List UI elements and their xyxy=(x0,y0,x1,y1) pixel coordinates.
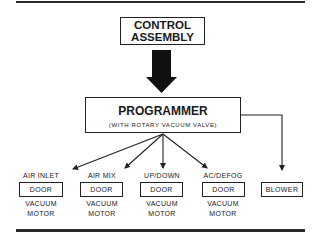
door-text: DOOR xyxy=(30,186,53,193)
blower-text: BLOWER xyxy=(266,186,299,193)
programmer-subtitle: (WITH ROTARY VACUUM VALVE) xyxy=(109,122,217,128)
ac-defog-label: AC/DEFOG xyxy=(193,172,253,179)
programmer-title: PROGRAMMER xyxy=(118,104,207,118)
door-text: DOOR xyxy=(150,186,173,193)
air-inlet-door-box: DOOR xyxy=(19,182,63,197)
control-line1: CONTROL xyxy=(134,19,191,31)
blower-box: BLOWER xyxy=(261,182,303,197)
bottom-rule xyxy=(16,229,305,232)
door-text: DOOR xyxy=(212,186,235,193)
up-down-label: UP/DOWN xyxy=(132,172,192,179)
motor-label: MOTOR xyxy=(72,210,132,217)
control-assembly-box: CONTROL ASSEMBLY xyxy=(120,17,205,45)
air-mix-label: AIR MIX xyxy=(72,172,132,179)
door-text: DOOR xyxy=(90,186,113,193)
control-line2: ASSEMBLY xyxy=(131,31,194,43)
main-down-arrow xyxy=(146,50,177,93)
air-inlet-label: AIR INLET xyxy=(11,172,71,179)
ac-defog-door-box: DOOR xyxy=(202,182,245,197)
motor-label: MOTOR xyxy=(193,210,253,217)
programmer-box: PROGRAMMER (WITH ROTARY VACUUM VALVE) xyxy=(85,97,241,133)
air-mix-door-box: DOOR xyxy=(80,182,123,197)
vacuum-label: VACUUM xyxy=(72,200,132,207)
vacuum-label: VACUUM xyxy=(193,200,253,207)
motor-label: MOTOR xyxy=(11,210,71,217)
motor-label: MOTOR xyxy=(132,210,192,217)
vacuum-label: VACUUM xyxy=(11,200,71,207)
up-down-door-box: DOOR xyxy=(140,182,183,197)
vacuum-label: VACUUM xyxy=(132,200,192,207)
